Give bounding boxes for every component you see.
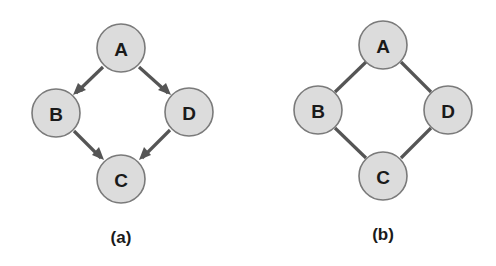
- node-c: C: [359, 152, 407, 200]
- svg-text:D: D: [182, 103, 196, 124]
- graph-a: A B D C (a): [32, 24, 213, 247]
- node-b: B: [294, 86, 342, 134]
- edge-a-d: [401, 62, 431, 92]
- svg-text:D: D: [441, 101, 455, 122]
- caption-a: (a): [111, 228, 132, 247]
- node-b: B: [32, 89, 80, 137]
- edge-a-b: [335, 62, 366, 92]
- svg-text:A: A: [376, 36, 390, 57]
- edge-d-c: [401, 128, 431, 158]
- caption-b: (b): [372, 225, 394, 244]
- svg-text:B: B: [49, 104, 63, 125]
- node-a: A: [359, 21, 407, 69]
- node-d: D: [424, 86, 472, 134]
- edge-b-c: [335, 128, 366, 158]
- svg-text:B: B: [311, 101, 325, 122]
- node-c: C: [97, 155, 145, 203]
- svg-text:C: C: [376, 167, 390, 188]
- diagram-canvas: A B D C (a) A B D: [0, 0, 496, 266]
- node-a: A: [97, 24, 145, 72]
- node-d: D: [165, 88, 213, 136]
- svg-text:C: C: [114, 170, 128, 191]
- graph-b: A B D C (b): [294, 21, 472, 244]
- svg-text:A: A: [114, 39, 128, 60]
